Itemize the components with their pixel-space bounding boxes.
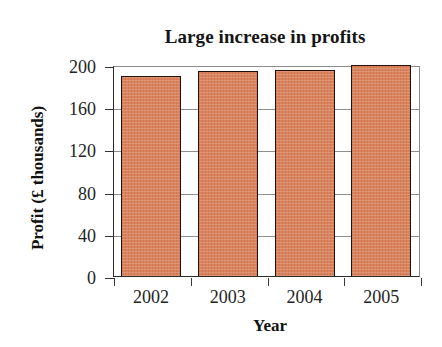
x-axis-tick [191,278,192,286]
bar-chart-figure: Large increase in profits Profit (£ thou… [0,0,442,347]
x-axis-tick-label: 2005 [346,288,416,306]
y-axis-tick-label: 160 [50,100,96,118]
y-axis-tick [105,67,114,68]
y-axis-tick-label: 200 [50,58,96,76]
bar-2003 [198,71,258,276]
bar-2005 [351,65,411,276]
y-axis-tick-label: 0 [50,269,96,287]
x-axis-tick-label: 2003 [193,288,263,306]
y-axis-tick [105,278,114,279]
x-axis-title: Year [120,316,420,336]
y-axis-tick [105,109,114,110]
x-axis-tick-label: 2004 [270,288,340,306]
bar-2002 [121,76,181,276]
x-axis-tick-label: 2002 [116,288,186,306]
bar-2004 [275,70,335,276]
chart-title: Large increase in profits [100,26,430,48]
x-axis-tick [268,278,269,286]
x-axis-tick [421,278,422,286]
x-axis-tick [344,278,345,286]
y-axis-tick-label: 80 [50,185,96,203]
y-axis-title: Profit (£ thousands) [28,58,48,298]
y-axis-tick [105,151,114,152]
y-axis-tick-label: 120 [50,142,96,160]
x-axis-tick [114,278,115,286]
y-axis-tick-label: 40 [50,227,96,245]
plot-area: 040801201602002002200320042005 [113,66,420,277]
y-axis-tick [105,194,114,195]
y-axis-tick [105,236,114,237]
